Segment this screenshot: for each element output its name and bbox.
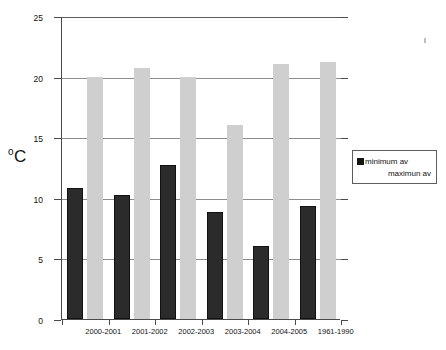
y-tick-label: 20 xyxy=(34,74,43,84)
x-tick xyxy=(341,320,342,325)
bar-minimum xyxy=(253,246,269,319)
x-tick xyxy=(155,320,156,325)
y-tick: 0 xyxy=(54,320,61,321)
legend-label-maximum: maximun av xyxy=(388,169,431,178)
bar-group xyxy=(67,16,108,319)
y-tick-label: 5 xyxy=(38,255,43,265)
y-tick-right xyxy=(341,17,348,18)
bar-minimum xyxy=(160,165,176,319)
y-tick-label: 10 xyxy=(34,195,43,205)
bar-maximum xyxy=(134,68,150,319)
x-tick xyxy=(202,320,203,325)
legend-item-minimum: minimum av xyxy=(357,155,431,167)
y-tick-right xyxy=(341,199,348,200)
bar-maximum xyxy=(87,77,103,319)
y-tick-right xyxy=(341,78,348,79)
x-tick-label: 1961-1990 xyxy=(301,327,371,336)
x-tick xyxy=(248,320,249,325)
bar-maximum xyxy=(227,125,243,319)
y-tick: 10 xyxy=(54,199,61,200)
y-tick: 25 xyxy=(54,17,61,18)
bar-group xyxy=(160,16,201,319)
y-tick: 20 xyxy=(54,78,61,79)
bar-minimum xyxy=(300,206,316,319)
legend-swatch-minimum xyxy=(357,158,364,165)
bar-minimum xyxy=(67,188,83,319)
bar-group xyxy=(114,16,155,319)
x-tick xyxy=(295,320,296,325)
bar-group xyxy=(207,16,248,319)
y-tick-right xyxy=(341,320,348,321)
x-tick xyxy=(62,320,63,325)
plot-area: 0510152025 2000-20012001-20022002-200320… xyxy=(61,17,340,320)
bar-maximum xyxy=(180,77,196,319)
legend-item-maximum: maximun av xyxy=(357,167,431,179)
y-tick-label: 25 xyxy=(34,13,43,23)
y-tick: 5 xyxy=(54,259,61,260)
y-axis-label: oC xyxy=(8,147,26,167)
y-tick-label: 15 xyxy=(34,134,43,144)
y-tick: 15 xyxy=(54,138,61,139)
bar-chart-figure: oC 0510152025 2000-20012001-20022002-200… xyxy=(0,0,446,350)
bar-maximum xyxy=(273,64,289,319)
chart-legend: minimum av maximun av xyxy=(352,150,437,184)
x-tick xyxy=(109,320,110,325)
y-tick-right xyxy=(341,138,348,139)
bar-minimum xyxy=(207,212,223,319)
legend-label-minimum: minimum av xyxy=(365,157,408,166)
bar-maximum xyxy=(320,62,336,319)
y-axis-unit: C xyxy=(14,147,27,166)
y-tick-right xyxy=(341,259,348,260)
y-tick-label: 0 xyxy=(38,316,43,326)
scan-speck xyxy=(424,38,426,43)
bar-group xyxy=(253,16,294,319)
bar-minimum xyxy=(114,195,130,319)
bar-group xyxy=(300,16,341,319)
